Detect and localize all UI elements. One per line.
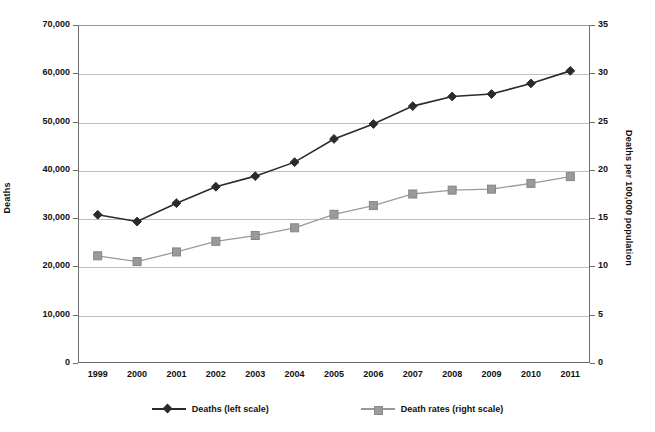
y-axis-left-tick-mark — [73, 170, 78, 171]
y-axis-left-tick-mark — [73, 218, 78, 219]
y-axis-right-tick-mark — [590, 266, 595, 267]
gridline — [79, 74, 589, 75]
legend-item-death-rates[interactable]: Death rates (right scale) — [361, 403, 504, 414]
y-axis-right-tick-label: 25 — [598, 116, 638, 126]
y-axis-left-tick-label: 40,000 — [8, 164, 70, 174]
y-axis-right-tick-mark — [590, 122, 595, 123]
y-axis-left-tick-label: 70,000 — [8, 19, 70, 29]
y-axis-right-tick-mark — [590, 73, 595, 74]
y-axis-right-title: Deaths per 100,000 population — [624, 130, 634, 266]
y-axis-left-tick-label: 60,000 — [8, 67, 70, 77]
y-axis-left-tick-label: 10,000 — [8, 309, 70, 319]
chart-legend: Deaths (left scale) Death rates (right s… — [0, 403, 655, 414]
y-axis-left-tick-label: 0 — [8, 357, 70, 367]
y-axis-left-tick-mark — [73, 315, 78, 316]
y-axis-right-tick-mark — [590, 25, 595, 26]
y-axis-right-tick-label: 0 — [598, 357, 638, 367]
gridline — [79, 171, 589, 172]
y-axis-left-tick-mark — [73, 266, 78, 267]
y-axis-right-tick-label: 20 — [598, 164, 638, 174]
legend-square-icon — [361, 403, 395, 414]
gridline — [79, 267, 589, 268]
y-axis-right-tick-mark — [590, 315, 595, 316]
y-axis-right-tick-label: 5 — [598, 309, 638, 319]
y-axis-right-tick-label: 35 — [598, 19, 638, 29]
legend-diamond-icon — [152, 403, 186, 414]
y-axis-left-tick-mark — [73, 363, 78, 364]
gridline — [79, 123, 589, 124]
plot-area — [78, 25, 590, 363]
legend-label-deaths: Deaths (left scale) — [192, 404, 269, 414]
gridline — [79, 316, 589, 317]
y-axis-left-tick-mark — [73, 73, 78, 74]
x-axis-tick-label: 2011 — [540, 369, 600, 379]
chart-container: Deaths Deaths per 100,000 population 010… — [0, 0, 655, 432]
y-axis-right-tick-label: 15 — [598, 212, 638, 222]
y-axis-right-tick-label: 10 — [598, 260, 638, 270]
y-axis-left-tick-label: 50,000 — [8, 116, 70, 126]
legend-label-death-rates: Death rates (right scale) — [401, 404, 504, 414]
y-axis-right-tick-label: 30 — [598, 67, 638, 77]
y-axis-right-tick-mark — [590, 363, 595, 364]
y-axis-right-tick-mark — [590, 170, 595, 171]
y-axis-left-tick-label: 20,000 — [8, 260, 70, 270]
gridline — [79, 219, 589, 220]
y-axis-left-tick-mark — [73, 122, 78, 123]
y-axis-left-tick-mark — [73, 25, 78, 26]
legend-item-deaths[interactable]: Deaths (left scale) — [152, 403, 269, 414]
y-axis-right-tick-mark — [590, 218, 595, 219]
y-axis-left-title: Deaths — [2, 182, 12, 213]
y-axis-left-tick-label: 30,000 — [8, 212, 70, 222]
